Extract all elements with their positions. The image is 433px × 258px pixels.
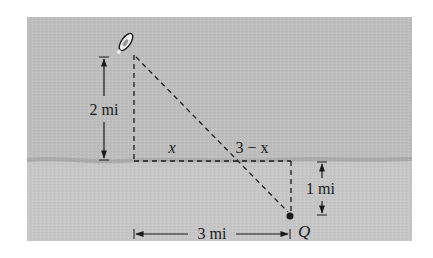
point-marker — [287, 213, 294, 220]
label-3mi: 3 mi — [198, 225, 227, 242]
label-3-minus-x: 3 − x — [235, 139, 268, 156]
label-q: Q — [298, 222, 310, 241]
label-1mi: 1 mi — [306, 180, 335, 197]
label-x: x — [167, 139, 175, 156]
label-2mi: 2 mi — [90, 101, 119, 118]
boat-to-point-diagram: 2 mi x 3 − x 1 mi Q 3 mi — [0, 0, 433, 258]
